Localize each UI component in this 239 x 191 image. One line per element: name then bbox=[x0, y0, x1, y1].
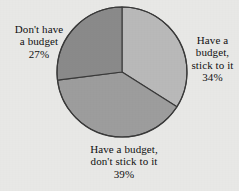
pie-label-have-budget-stick-to-it: Have a budget, stick to it 34% bbox=[186, 34, 239, 84]
pie-chart-figure: Don't have a budget 27% Have a budget, s… bbox=[0, 0, 239, 191]
pie-slices bbox=[57, 7, 187, 137]
pie-label-have-budget-dont-stick-to-it: Have a budget, don't stick to it 39% bbox=[62, 143, 186, 180]
pie-label-dont-have-budget: Don't have a budget 27% bbox=[2, 23, 76, 60]
